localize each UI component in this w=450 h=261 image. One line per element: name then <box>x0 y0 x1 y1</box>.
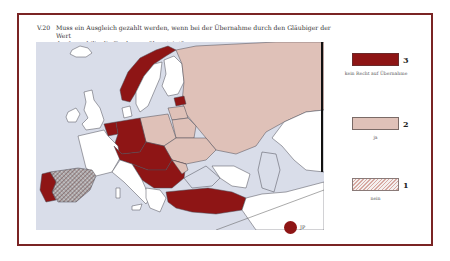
region-sicily <box>132 204 142 210</box>
region-ireland <box>66 108 80 122</box>
title-line-1: Muss ein Ausgleich gezahlt werden, wenn … <box>56 24 346 40</box>
region-spain <box>50 168 96 202</box>
japan-inset-marker <box>284 221 297 234</box>
region-middle-east <box>242 182 324 230</box>
legend-value-1: 1 <box>403 180 409 190</box>
region-germany <box>114 118 146 154</box>
region-estonia <box>174 96 186 106</box>
region-finland <box>162 56 184 96</box>
region-greece <box>146 188 166 212</box>
legend-label-3: kein Recht auf Übernahme <box>340 71 412 76</box>
legend-swatch-2 <box>352 117 399 130</box>
region-sardinia <box>116 188 120 198</box>
region-iceland <box>70 46 92 57</box>
legend-label-1: nein <box>352 196 399 201</box>
legend-label-2: ja <box>352 135 399 140</box>
figure-number: V.20 <box>37 24 50 32</box>
legend-swatch-1 <box>352 178 399 191</box>
figure-frame: V.20 Muss ein Ausgleich gezahlt werden, … <box>17 13 433 246</box>
region-denmark <box>122 106 132 118</box>
map-graphic <box>36 42 324 230</box>
caspian-sea <box>258 152 280 192</box>
japan-inset-label: JP <box>300 225 305 230</box>
europe-map <box>36 42 324 230</box>
region-uk <box>82 90 104 130</box>
legend-swatch-3 <box>352 53 399 66</box>
legend-value-3: 3 <box>403 55 409 65</box>
legend-value-2: 2 <box>403 119 409 129</box>
region-turkey <box>166 188 246 214</box>
